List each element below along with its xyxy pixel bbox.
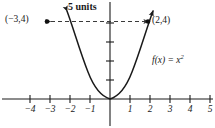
x-tick-label-neg2: −2 [62, 105, 78, 115]
x-tick-label-3: 3 [162, 105, 178, 115]
x-tick-label-2: 2 [142, 105, 158, 115]
x-tick-label-1: 1 [122, 105, 138, 115]
x-tick-label-5: 5 [202, 105, 215, 115]
function-equation-base: f(x) = x [152, 55, 181, 65]
x-tick-label-neg1: −1 [82, 105, 98, 115]
distance-annotation-label: 5 units [68, 2, 97, 12]
x-tick-label-4: 4 [182, 105, 198, 115]
point-label-left: (−3,4) [5, 15, 29, 25]
point-marker-right [146, 19, 151, 24]
x-tick-label-neg4: −4 [22, 105, 38, 115]
function-equation-label: f(x) = x2 [152, 54, 184, 66]
function-equation-exponent: 2 [181, 53, 184, 60]
x-tick-label-neg3: −3 [42, 105, 58, 115]
graph-figure: −4 −3 −2 −1 1 2 3 4 5 (−3,4) (2,4) 5 uni… [0, 0, 215, 128]
point-label-right: (2,4) [152, 16, 170, 26]
point-marker-left [45, 19, 50, 24]
